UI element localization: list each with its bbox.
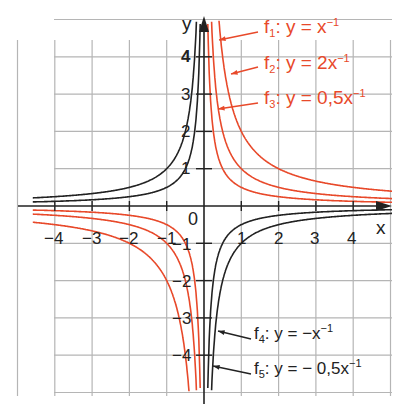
curve-f1-pos <box>212 22 392 199</box>
legend-f3: f3: y = 0,5x−1 <box>264 88 366 110</box>
y-tick-label: −3 <box>172 310 191 327</box>
legend-f2: f2: y = 2x−1 <box>264 53 350 75</box>
x-tick-label: 3 <box>310 230 319 247</box>
y-tick-label: 1 <box>181 160 190 177</box>
x-axis-label: x <box>376 218 386 237</box>
curve-f3-pos <box>208 24 392 202</box>
y-tick-label: −2 <box>172 273 191 290</box>
legend-f3-eq: : y = 0,5x <box>275 87 353 108</box>
x-tick-label: −2 <box>119 230 138 247</box>
x-tick-label: −4 <box>44 230 63 247</box>
legend-f2-eq: : y = 2x <box>275 52 337 73</box>
curve-f5-neg <box>33 24 200 202</box>
y-axis-label: y <box>182 14 192 33</box>
curve-f4-neg <box>33 22 197 198</box>
x-tick-label: 2 <box>274 230 283 247</box>
x-tick-label: 4 <box>347 230 356 247</box>
legend-f4-eq: : y = −x <box>265 324 321 343</box>
y-tick-label: 3 <box>181 86 190 103</box>
legend-pointers <box>213 32 258 374</box>
origin-label: 0 <box>188 210 198 228</box>
pointer-f4-head-icon <box>218 330 225 335</box>
legend-f1: f1: y = x−1 <box>264 17 339 39</box>
legend-f4: f4: y = −x−1 <box>254 323 333 345</box>
legend-f4-sup: −1 <box>321 322 334 334</box>
legend-f3-sup: −1 <box>353 87 366 99</box>
legend-f2-sup: −1 <box>337 52 350 64</box>
legend-f1-sup: −1 <box>327 16 340 28</box>
y-tick-label: −4 <box>172 347 191 364</box>
x-tick-label: −3 <box>82 230 101 247</box>
y-tick-label: 2 <box>181 123 190 140</box>
y-tick-label: 4 <box>181 48 190 65</box>
y-tick-label: −1 <box>172 236 191 253</box>
pointer-f2-head-icon <box>231 70 238 75</box>
x-tick-label: 1 <box>237 230 246 247</box>
legend-f5-sup: −1 <box>349 357 362 369</box>
legend-f5: f5: y = − 0,5x−1 <box>254 358 362 380</box>
legend-f1-eq: : y = x <box>275 16 326 37</box>
y-axis-arrow-icon <box>199 16 209 32</box>
legend-f5-eq: : y = − 0,5x <box>265 359 349 378</box>
